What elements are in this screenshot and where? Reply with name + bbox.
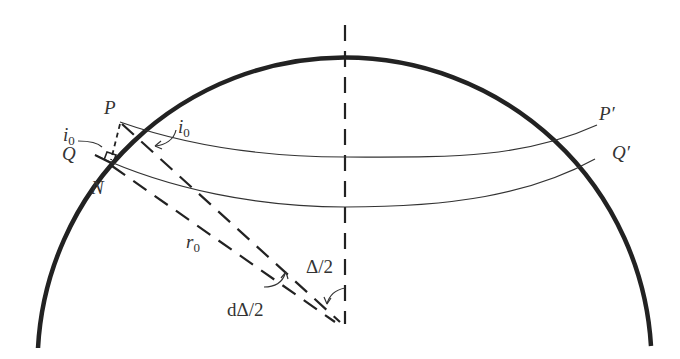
label-r0: r0 xyxy=(186,231,200,255)
radius-r0-dashed xyxy=(112,166,335,322)
label-p-prime: P′ xyxy=(598,103,616,124)
i0-left-leader xyxy=(78,141,102,147)
label-d-half-delta: dΔ/2 xyxy=(227,299,264,320)
ray-path-p xyxy=(120,122,597,157)
label-i0-right: i0 xyxy=(178,116,190,140)
d-half-delta-arc xyxy=(264,274,285,287)
half-delta-arc xyxy=(327,288,345,304)
label-q-prime: Q′ xyxy=(612,142,631,163)
label-half-delta: Δ/2 xyxy=(306,256,333,277)
label-p: P xyxy=(103,97,116,118)
earth-surface-arc xyxy=(38,57,651,348)
radius-p-dashed xyxy=(122,124,340,322)
segment-qn xyxy=(95,155,111,163)
label-n: N xyxy=(90,177,105,198)
diagram-canvas: P Q N P′ Q′ i0 i0 r0 Δ/2 dΔ/2 xyxy=(0,0,680,359)
label-i0-left: i0 xyxy=(63,124,75,148)
ray-geometry-figure: P Q N P′ Q′ i0 i0 r0 Δ/2 dΔ/2 xyxy=(0,0,680,359)
